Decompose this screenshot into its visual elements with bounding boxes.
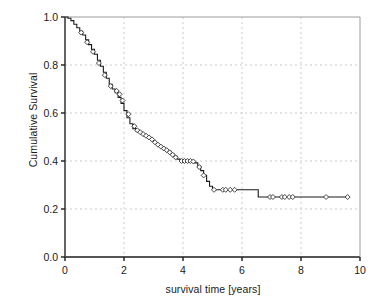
x-tick-label-2: 2 bbox=[109, 264, 139, 276]
y-tick-label-0.2: 0.2 bbox=[20, 203, 58, 215]
x-tick-label-10: 10 bbox=[345, 264, 375, 276]
y-tick-label-0.8: 0.8 bbox=[20, 59, 58, 71]
censored-markers bbox=[79, 30, 350, 199]
y-tick-label-0.6: 0.6 bbox=[20, 107, 58, 119]
x-axis-title: survival time [years] bbox=[65, 283, 361, 295]
y-tick-label-0.4: 0.4 bbox=[20, 155, 58, 167]
x-tick-label-8: 8 bbox=[286, 264, 316, 276]
grid-lines bbox=[65, 17, 360, 257]
censored-marker bbox=[290, 195, 295, 200]
censored-marker bbox=[324, 195, 329, 200]
x-tick-label-0: 0 bbox=[50, 264, 80, 276]
survival-step-curve bbox=[65, 17, 348, 197]
censored-marker bbox=[345, 195, 350, 200]
axis-ticks bbox=[61, 17, 360, 261]
censored-marker bbox=[232, 187, 237, 192]
x-tick-label-6: 6 bbox=[227, 264, 257, 276]
censored-marker bbox=[201, 173, 206, 178]
y-tick-label-1.0: 1.0 bbox=[20, 11, 58, 23]
x-tick-label-4: 4 bbox=[168, 264, 198, 276]
survival-chart-figure: Cumulative Survival survival time [years… bbox=[0, 0, 377, 304]
axis-frame bbox=[65, 17, 360, 257]
y-tick-label-0.0: 0.0 bbox=[20, 251, 58, 263]
